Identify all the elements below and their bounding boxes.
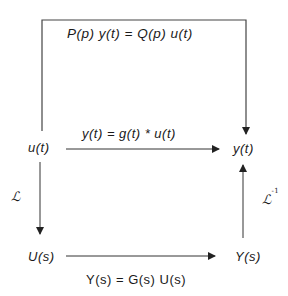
laplace-symbol: ℒ	[11, 190, 21, 203]
node-y-t: y(t)	[233, 142, 254, 155]
inverse-laplace-symbol: ℒ-1	[262, 193, 279, 206]
node-U-s: U(s)	[28, 250, 55, 263]
node-u-t: u(t)	[28, 141, 50, 154]
node-Y-s: Y(s)	[235, 250, 261, 263]
convolution-equation: y(t) = g(t) * u(t)	[82, 127, 176, 140]
inverse-superscript: -1	[272, 187, 280, 195]
ode-equation: P(p) y(t) = Q(p) u(t)	[67, 27, 193, 41]
inverse-laplace-letter: ℒ	[262, 192, 272, 207]
transfer-function-equation: Y(s) = G(s) U(s)	[86, 273, 186, 286]
